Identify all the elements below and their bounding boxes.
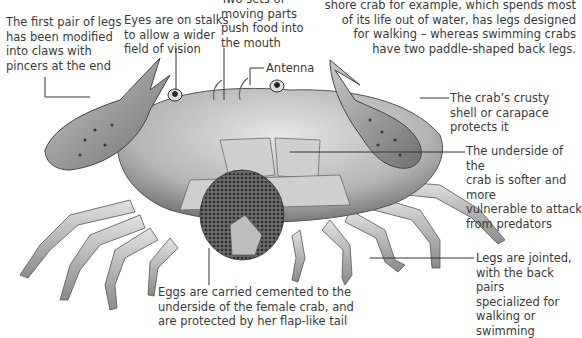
- label-legs: Legs are jointed, with the back pairs sp…: [476, 251, 582, 338]
- label-mouthparts: Two sets of moving parts push food into …: [221, 0, 304, 50]
- label-claws: The first pair of legs has been modified…: [6, 15, 121, 73]
- label-underside: The underside of the crab is softer and …: [466, 144, 582, 231]
- label-antenna: Antenna: [266, 61, 314, 76]
- label-carapace: The crab’s crusty shell or carapace prot…: [450, 91, 549, 135]
- intro-text: shore crab for example, which spends mos…: [325, 0, 576, 56]
- label-eyes: Eyes are on stalks to allow a wider fiel…: [124, 13, 228, 57]
- label-eggs: Eggs are carried cemented to the undersi…: [158, 285, 354, 329]
- left-legs: [20, 200, 178, 310]
